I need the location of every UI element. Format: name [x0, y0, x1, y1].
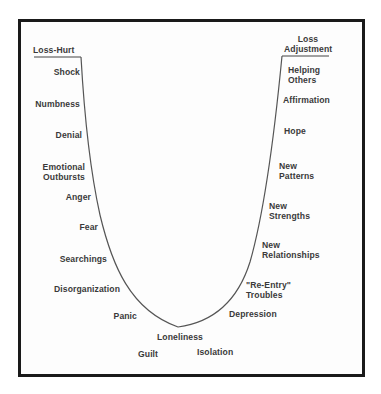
- stage-isolation: Isolation: [197, 348, 233, 358]
- stage-numbness: Numbness: [35, 100, 80, 110]
- stage-panic: Panic: [114, 312, 137, 322]
- stage-fear: Fear: [79, 223, 98, 233]
- stage-anger: Anger: [66, 193, 91, 203]
- stage-new-relationships: NewRelationships: [262, 241, 320, 260]
- start-label: Loss-Hurt: [33, 46, 74, 56]
- stage-new-patterns: NewPatterns: [279, 162, 314, 181]
- stage-guilt: Guilt: [138, 350, 158, 360]
- stage-disorganization: Disorganization: [54, 285, 120, 295]
- stage-re-entry-troubles: "Re-Entry"Troubles: [246, 281, 291, 300]
- stage-affirmation: Affirmation: [283, 96, 330, 106]
- stage-hope: Hope: [284, 127, 306, 137]
- stage-emotional-outbursts: EmotionalOutbursts: [43, 163, 85, 182]
- end-label: LossAdjustment: [284, 35, 332, 54]
- stage-denial: Denial: [56, 131, 82, 141]
- stage-shock: Shock: [54, 68, 80, 78]
- stage-searchings: Searchings: [60, 255, 107, 265]
- stage-depression: Depression: [229, 310, 277, 320]
- stage-helping-others: HelpingOthers: [288, 66, 320, 85]
- stage-new-strengths: NewStrengths: [269, 202, 310, 221]
- stage-loneliness: Loneliness: [157, 333, 203, 343]
